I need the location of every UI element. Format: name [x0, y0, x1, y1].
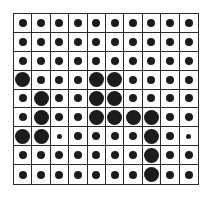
- dot-icon: [166, 94, 174, 102]
- dot-icon: [37, 19, 45, 27]
- dot-icon: [147, 38, 155, 46]
- grid-cell: [51, 108, 69, 127]
- dot-icon: [55, 113, 63, 121]
- grid-cell: [32, 165, 50, 184]
- dot-icon: [144, 167, 159, 182]
- grid-cell: [88, 146, 106, 165]
- dot-icon: [129, 132, 137, 140]
- dot-icon: [74, 171, 82, 179]
- dot-icon: [129, 151, 137, 159]
- grid-cell: [180, 108, 198, 127]
- grid-cell: [143, 108, 161, 127]
- grid-cell: [88, 52, 106, 71]
- dot-icon: [144, 129, 159, 144]
- grid-cell: [124, 146, 142, 165]
- grid-cell: [180, 165, 198, 184]
- grid-cell: [143, 146, 161, 165]
- dot-icon: [126, 110, 141, 125]
- dot-icon: [107, 91, 122, 106]
- grid-cell: [88, 108, 106, 127]
- dot-icon: [34, 110, 49, 125]
- dot-icon: [74, 132, 82, 140]
- grid-cell: [88, 71, 106, 90]
- grid-cell: [143, 52, 161, 71]
- dot-icon: [111, 19, 119, 27]
- dot-icon: [89, 91, 104, 106]
- grid-cell: [14, 33, 32, 52]
- dot-icon: [55, 151, 63, 159]
- dot-icon: [166, 171, 174, 179]
- grid-cell: [161, 146, 179, 165]
- dot-icon: [19, 19, 27, 27]
- grid-cell: [88, 127, 106, 146]
- grid-cell: [51, 146, 69, 165]
- dot-icon: [166, 57, 174, 65]
- dot-icon: [19, 113, 27, 121]
- dot-icon: [107, 72, 122, 87]
- grid-cell: [161, 127, 179, 146]
- grid-cell: [14, 108, 32, 127]
- dot-icon: [74, 94, 82, 102]
- grid-cell: [69, 33, 87, 52]
- dot-icon: [129, 57, 137, 65]
- grid-cell: [14, 127, 32, 146]
- dot-icon: [185, 57, 193, 65]
- dot-icon: [166, 132, 174, 140]
- dot-icon: [92, 57, 100, 65]
- dot-icon: [89, 110, 104, 125]
- grid-cell: [32, 52, 50, 71]
- dot-icon: [15, 129, 30, 144]
- grid-cell: [161, 52, 179, 71]
- dot-icon: [37, 151, 45, 159]
- grid-cell: [32, 33, 50, 52]
- grid-cell: [14, 165, 32, 184]
- grid-cell: [106, 165, 124, 184]
- dot-icon: [185, 19, 193, 27]
- dot-icon: [185, 94, 193, 102]
- dot-icon: [107, 110, 122, 125]
- grid-cell: [69, 108, 87, 127]
- dot-icon: [74, 76, 82, 84]
- grid-cell: [51, 165, 69, 184]
- grid-cell: [106, 146, 124, 165]
- grid-cell: [180, 33, 198, 52]
- dot-icon: [186, 134, 191, 139]
- dot-icon: [74, 57, 82, 65]
- grid-cell: [88, 33, 106, 52]
- dot-icon: [129, 38, 137, 46]
- grid-cell: [51, 127, 69, 146]
- grid-cell: [124, 165, 142, 184]
- grid-cell: [143, 71, 161, 90]
- grid-cell: [161, 108, 179, 127]
- dot-icon: [111, 151, 119, 159]
- grid-cell: [69, 90, 87, 109]
- grid-cell: [106, 33, 124, 52]
- dot-icon: [185, 151, 193, 159]
- dot-icon: [37, 171, 45, 179]
- grid-cell: [51, 33, 69, 52]
- grid-cell: [124, 90, 142, 109]
- dot-icon: [92, 132, 100, 140]
- grid-cell: [88, 90, 106, 109]
- grid-cell: [106, 14, 124, 33]
- grid-cell: [32, 71, 50, 90]
- dot-icon: [74, 19, 82, 27]
- grid-cell: [69, 71, 87, 90]
- grid-cell: [51, 90, 69, 109]
- dot-icon: [166, 19, 174, 27]
- grid-cell: [69, 52, 87, 71]
- dot-icon: [147, 76, 155, 84]
- dot-icon: [129, 76, 137, 84]
- grid-cell: [124, 14, 142, 33]
- dot-icon: [55, 76, 63, 84]
- dot-icon: [92, 151, 100, 159]
- dot-icon: [129, 19, 137, 27]
- dot-icon: [74, 38, 82, 46]
- dot-icon: [111, 38, 119, 46]
- dot-icon: [147, 57, 155, 65]
- dot-icon: [147, 94, 155, 102]
- dot-icon: [34, 91, 49, 106]
- grid-cell: [161, 33, 179, 52]
- grid-cell: [124, 52, 142, 71]
- dot-icon: [19, 171, 27, 179]
